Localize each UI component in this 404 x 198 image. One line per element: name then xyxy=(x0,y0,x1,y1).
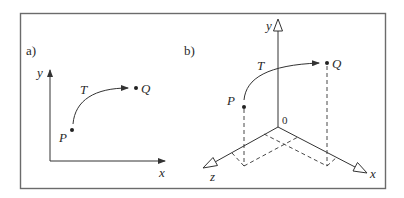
panel-a-label: a) xyxy=(26,43,36,58)
panel-a-q-label: Q xyxy=(141,81,151,96)
figure: a) y x T P Q b) y z x 0 xyxy=(0,0,404,198)
panel-b-z-arrowhead xyxy=(203,158,218,169)
panel-b-q-label: Q xyxy=(332,56,342,71)
panel-b-point-q xyxy=(325,61,329,65)
panel-b-p-label: P xyxy=(226,93,235,108)
panel-a-point-q xyxy=(134,86,138,90)
panel-b-label: b) xyxy=(184,43,195,58)
panel-a-y-label: y xyxy=(35,65,43,80)
panel-b-point-p xyxy=(242,105,246,109)
panel-a-point-p xyxy=(70,128,74,132)
panel-b-y-arrowhead xyxy=(274,19,283,31)
panel-b-x-label: x xyxy=(369,166,376,181)
panel-a-p-label: P xyxy=(58,130,67,145)
panel-a-transform-label: T xyxy=(80,82,88,97)
panel-b-y-label: y xyxy=(264,18,272,33)
panel-b-transform-label: T xyxy=(257,58,265,73)
panel-b-x-arrowhead xyxy=(353,163,367,174)
figure-frame xyxy=(21,14,386,189)
panel-a-x-label: x xyxy=(158,165,165,180)
panel-b-transform-curve xyxy=(244,63,319,100)
panel-b-origin-label: 0 xyxy=(282,114,288,126)
panel-b-z-axis xyxy=(215,127,278,162)
panel-a: a) y x T P Q xyxy=(26,43,165,180)
panel-b: b) y z x 0 T P Q xyxy=(184,18,376,184)
panel-b-z-label: z xyxy=(209,169,215,184)
